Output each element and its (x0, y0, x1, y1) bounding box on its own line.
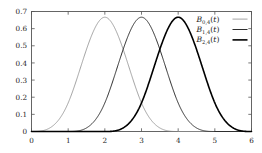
chart-legend: B0,4(t)B1,4(t)B2,4(t) (196, 15, 248, 46)
legend-label-0: B0,4(t) (196, 15, 220, 25)
x-tick-label: 0 (29, 136, 34, 145)
y-tick-label: 0.2 (16, 93, 27, 102)
y-tick-label: 0.4 (16, 59, 28, 68)
y-tick-label: 0.3 (16, 76, 28, 85)
y-tick-label: 0.6 (16, 24, 28, 33)
x-tick-label: 4 (176, 136, 181, 145)
chart-canvas: 0123456 00.10.20.30.40.50.60.7 B0,4(t)B1… (0, 0, 262, 153)
x-tick-label: 6 (249, 136, 254, 145)
y-tick-label: 0.1 (16, 110, 27, 119)
y-axis-tick-labels: 00.10.20.30.40.50.60.7 (16, 7, 28, 136)
legend-label-2: B2,4(t) (196, 35, 220, 45)
y-tick-label: 0 (22, 127, 27, 136)
x-axis-tick-labels: 0123456 (29, 136, 254, 145)
legend-label-1: B1,4(t) (196, 25, 220, 35)
x-tick-label: 2 (103, 136, 108, 145)
y-tick-label: 0.7 (16, 7, 28, 16)
x-tick-label: 5 (213, 136, 218, 145)
x-tick-label: 3 (139, 136, 144, 145)
y-tick-label: 0.5 (16, 41, 28, 50)
bspline-basis-chart: 0123456 00.10.20.30.40.50.60.7 B0,4(t)B1… (0, 0, 262, 153)
x-tick-label: 1 (66, 136, 71, 145)
